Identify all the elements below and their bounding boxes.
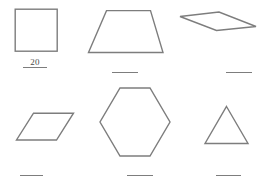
answer-slot-parallelogram[interactable] (20, 165, 43, 176)
answer-value-square: 20 (11, 57, 59, 67)
answer-slot-hexagon[interactable] (127, 165, 153, 176)
triangle-icon (202, 104, 252, 146)
square-icon (14, 8, 62, 56)
shape-hexagon (98, 86, 174, 158)
answer-value-hexagon (127, 165, 153, 175)
shapes-worksheet: 20 (0, 0, 266, 184)
parallelogram-icon (13, 110, 77, 144)
answer-slot-triangle[interactable] (216, 165, 241, 176)
answer-rule-square[interactable] (23, 67, 47, 68)
answer-value-rhomboid (226, 62, 252, 72)
answer-value-parallelogram (20, 165, 43, 175)
trapezoid-icon (86, 9, 166, 55)
answer-rule-rhomboid[interactable] (226, 72, 252, 73)
answer-rule-parallelogram[interactable] (20, 175, 43, 176)
answer-rule-hexagon[interactable] (127, 175, 153, 176)
answer-value-trapezoid (112, 62, 138, 72)
answer-rule-triangle[interactable] (216, 175, 241, 176)
shape-parallelogram (13, 110, 77, 144)
answer-rule-trapezoid[interactable] (112, 72, 138, 73)
answer-value-triangle (216, 165, 241, 175)
hexagon-icon (98, 86, 174, 158)
shape-square (14, 8, 62, 56)
rhomboid-icon (178, 9, 260, 35)
shape-trapezoid (86, 9, 166, 55)
answer-slot-square[interactable]: 20 (11, 57, 59, 68)
answer-slot-rhomboid[interactable] (226, 62, 252, 73)
shape-rhomboid (178, 9, 260, 35)
answer-slot-trapezoid[interactable] (112, 62, 138, 73)
shape-triangle (202, 104, 252, 146)
